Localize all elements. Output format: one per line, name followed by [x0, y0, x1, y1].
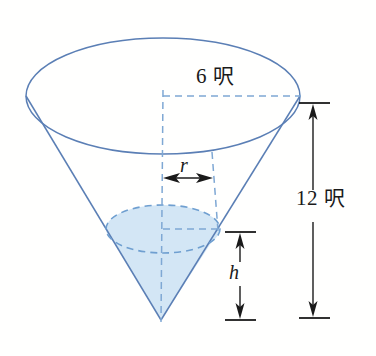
diameter-label: 6 呎	[196, 66, 234, 87]
liquid-fill-group	[106, 205, 220, 320]
height-dimension-group	[299, 103, 330, 318]
depth-symbol-label: h	[229, 262, 239, 282]
radius-dimension-group	[163, 173, 213, 183]
cone-diagram-svg	[0, 0, 376, 356]
radius-symbol-label: r	[180, 155, 188, 175]
total-height-label: 12 呎	[296, 188, 345, 209]
cone-diagram-figure: 6 呎 12 呎 r h	[0, 0, 376, 356]
